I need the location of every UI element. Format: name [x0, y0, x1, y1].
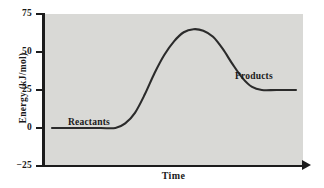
reactants-label: Reactants [68, 118, 110, 128]
y-tick-mark-0 [36, 127, 43, 129]
y-axis-title: Energy (kJ/mol) [18, 28, 28, 148]
y-tick-mark-75 [36, 13, 43, 15]
plot-area [44, 14, 303, 166]
y-tick-mark-25 [36, 89, 43, 91]
energy-diagram-figure: 75 50 25 0 −25 Energy (kJ/mol) Time Reac… [0, 0, 324, 188]
x-axis-line [42, 165, 304, 168]
y-tick-label-75: 75 [0, 9, 32, 19]
y-tick-mark-minus25 [36, 165, 43, 167]
products-label: Products [235, 72, 273, 82]
y-tick-label-minus25: −25 [0, 161, 32, 171]
x-axis-title: Time [44, 170, 303, 181]
y-tick-mark-50 [36, 51, 43, 53]
x-axis-arrowhead-icon [302, 160, 311, 170]
